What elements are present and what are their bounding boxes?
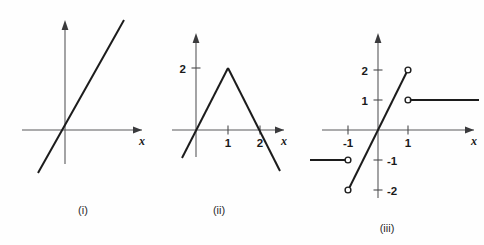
x-axis-label-ii: x [280, 134, 287, 148]
graph-panel-i: x [14, 12, 154, 182]
x-axis-i: x [22, 127, 145, 148]
y-axis-i [62, 20, 69, 164]
x-tick-label-1-ii: 1 [225, 137, 232, 149]
y-tick-label-neg2-iii: -2 [387, 185, 397, 197]
x-tick-label-2-ii: 2 [257, 137, 263, 149]
x-ticks-iii: -1 1 [343, 126, 412, 150]
x-axis-label-iii: x [470, 134, 477, 148]
caption-ii: (ii) [194, 204, 244, 216]
graph-panel-ii: x 1 2 2 [166, 26, 306, 182]
line-through-origin-i [38, 20, 124, 173]
y-ticks-ii: 2 [180, 63, 201, 75]
open-circle-neg1-neg1-iii [345, 157, 351, 163]
graph-panel-iii: x -1 1 2 1 -1 -2 [302, 26, 482, 206]
y-tick-label-neg1-iii: -1 [387, 155, 398, 167]
tent-rising-branch-ii [182, 68, 228, 158]
x-axis-label-i: x [138, 134, 145, 148]
x-axis-arrowhead-i [133, 127, 142, 134]
open-circle-1-2-iii [405, 67, 411, 73]
x-axis-arrowhead-iii [465, 127, 474, 134]
y-tick-label-2-iii: 2 [362, 65, 368, 77]
x-tick-label-neg1-iii: -1 [343, 137, 354, 149]
y-axis-arrowhead-ii [193, 33, 200, 43]
open-circle-neg1-neg2-iii [345, 187, 351, 193]
y-axis-iii [375, 33, 382, 198]
tent-falling-branch-ii [228, 68, 280, 171]
x-axis-arrowhead-ii [275, 127, 284, 134]
y-axis-arrowhead-i [62, 20, 69, 30]
x-tick-label-1-iii: 1 [405, 137, 412, 149]
y-tick-label-1-iii: 1 [362, 95, 369, 107]
figure-root: x x 1 2 2 [0, 0, 484, 245]
caption-iii: (iii) [362, 222, 412, 234]
caption-i: (i) [58, 204, 108, 216]
y-axis-arrowhead-iii [375, 33, 382, 43]
y-tick-label-2-ii: 2 [180, 63, 186, 75]
y-axis-ii [193, 33, 200, 157]
x-ticks-ii: 1 2 [225, 126, 263, 150]
